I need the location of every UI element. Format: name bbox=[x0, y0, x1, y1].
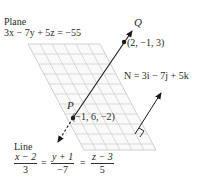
equals-sign-2: = bbox=[80, 157, 86, 168]
plane-title: Plane bbox=[4, 16, 26, 27]
equals-sign-1: = bbox=[41, 157, 47, 168]
plane-grid bbox=[28, 44, 156, 150]
line-fraction-x: x − 2 3 bbox=[14, 152, 37, 175]
line-fraction-x-num: x − 2 bbox=[14, 152, 37, 164]
point-Q-coords: (2, −1, 3) bbox=[127, 37, 164, 48]
normal-vector-label: N = 3i − 7j + 5k bbox=[124, 70, 189, 81]
point-Q-dot bbox=[122, 40, 126, 44]
point-P-coords: (−1, 6, −2) bbox=[72, 111, 115, 122]
line-fraction-y-den: −7 bbox=[57, 164, 68, 175]
line-fraction-x-den: 3 bbox=[23, 164, 28, 175]
point-Q-label: Q bbox=[134, 17, 142, 28]
line-fraction-z: z − 3 5 bbox=[91, 152, 114, 175]
line-fraction-z-den: 5 bbox=[100, 164, 105, 175]
plane-equation: 3x − 7y + 5z = −55 bbox=[4, 27, 81, 38]
line-fraction-y-num: y + 1 bbox=[51, 152, 74, 164]
point-P-label: P bbox=[67, 100, 74, 111]
line-fraction-z-num: z − 3 bbox=[91, 152, 114, 164]
line-fraction-y: y + 1 −7 bbox=[51, 152, 74, 175]
